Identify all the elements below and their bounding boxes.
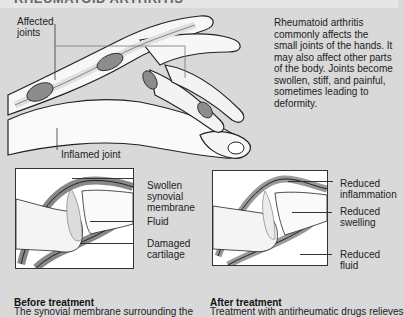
- header-band: RHEUMATOID ARTHRITIS: [0, 0, 398, 8]
- after-joint-diagram: [212, 170, 328, 266]
- label-swollen-synovial-membrane: Swollen synovial membrane: [147, 180, 197, 213]
- before-joint-diagram: [15, 168, 134, 269]
- label-fluid: Fluid: [147, 216, 169, 227]
- leader-reduced-fluid: [300, 254, 332, 255]
- leader-reduced-swelling: [292, 212, 332, 213]
- label-affected-joints: Affected joints: [17, 16, 57, 38]
- before-caption-text: The synovial membrane surrounding the: [14, 306, 193, 317]
- leader-swollen-membrane: [72, 178, 134, 179]
- after-caption-text: Treatment with antirheumatic drugs relie…: [210, 306, 404, 317]
- label-reduced-fluid: Reduced fluid: [340, 249, 380, 271]
- label-damaged-cartilage: Damaged cartilage: [147, 238, 197, 260]
- leader-damaged-cartilage: [80, 243, 134, 244]
- leader-fluid: [90, 221, 134, 222]
- leader-reduced-inflammation: [288, 181, 333, 182]
- label-reduced-swelling: Reduced swelling: [340, 206, 388, 228]
- before-joint-illustration: [16, 169, 133, 268]
- label-inflamed-joint: Inflamed joint: [61, 149, 120, 160]
- after-joint-illustration: [213, 171, 327, 265]
- page-title-cut: RHEUMATOID ARTHRITIS: [14, 0, 183, 6]
- description-text: Rheumatoid arthritis commonly affects th…: [274, 17, 394, 109]
- label-reduced-inflammation: Reduced inflammation: [340, 178, 398, 200]
